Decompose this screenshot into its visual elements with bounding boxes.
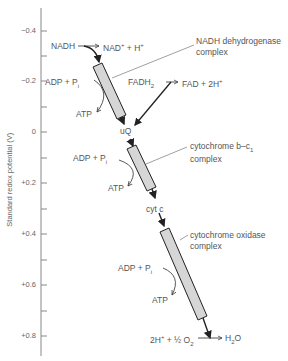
oxygen-label: 2H+ + ½ O2 [150, 334, 193, 347]
adp-pi-label: ADP + Pi [45, 78, 79, 89]
cytochrome-c-label: cyt c [146, 205, 163, 214]
y-axis [41, 8, 47, 356]
adp-pi-label: ADP + Pi [73, 154, 107, 165]
nadh-label: NADH [51, 42, 75, 51]
fadh2-label: FADH2 [128, 78, 154, 89]
ubiquinone-label: uQ [120, 127, 131, 136]
tick-label: −0.2 [6, 77, 36, 85]
tick-label: +0.6 [6, 281, 36, 289]
fad-label: FAD + 2H+ [182, 78, 223, 88]
tick-label: +0.4 [6, 230, 36, 238]
tick-label: +0.8 [6, 332, 36, 340]
tick-label: −0.4 [6, 27, 36, 35]
cytochrome-oxidase-label: cytochrome oxidase complex [190, 231, 266, 250]
cytochrome-bc1-label: cytochrome b–c1 complex [190, 142, 253, 163]
nadh-dehydrogenase-label: NADH dehydrogenase complex [196, 37, 281, 56]
atp-label: ATP [108, 184, 124, 193]
atp-label: ATP [152, 296, 168, 305]
adp-pi-label: ADP + Pi [118, 264, 152, 275]
atp-label: ATP [76, 110, 92, 119]
tick-label: 0 [6, 128, 36, 136]
water-label: H2O [225, 334, 241, 345]
nad-plus-label: NAD+ + H+ [103, 42, 144, 52]
tick-label: +0.2 [6, 179, 36, 187]
